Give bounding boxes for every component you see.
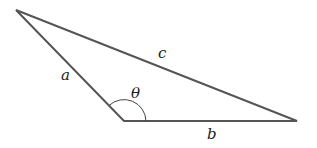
triangle-diagram [0,0,317,148]
side-b-label: b [207,127,217,142]
triangle [16,10,297,121]
side-a-label: a [61,68,70,83]
angle-theta-label: θ [131,86,140,101]
side-c-label: c [158,46,166,61]
